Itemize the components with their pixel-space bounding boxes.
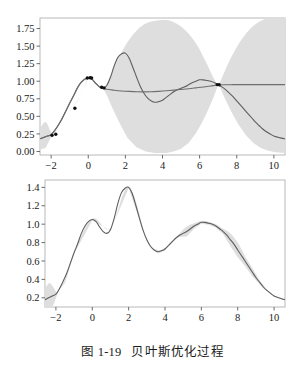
observation-point [90,76,93,79]
observation-point [102,86,105,89]
y-tick-label: 0.75 [16,93,34,104]
y-tick-label: 1.50 [16,41,34,52]
y-tick-label: 0.50 [16,111,34,122]
y-tick-label: 1.2 [26,200,39,211]
x-tick-label: 6 [197,160,202,171]
figure-caption-title: 贝叶斯优化过程 [131,345,223,359]
figure-container: −202468100.000.250.500.751.001.251.501.7… [0,0,305,375]
x-tick-label: 8 [235,312,240,323]
y-tick-label: 0.6 [26,256,39,267]
observation-point [50,134,53,137]
y-tick-label: 0.2 [26,292,39,303]
y-tick-label: 0.8 [26,237,39,248]
x-tick-label: 0 [90,312,95,323]
x-tick-label: 2 [126,312,131,323]
figure-caption-number: 图 1-19 [81,345,121,359]
plot-frame [45,180,285,307]
x-tick-label: −2 [46,160,57,171]
objective-function-chart: −202468100.20.40.60.81.01.21.4 [0,172,305,338]
x-tick-label: 10 [269,160,280,171]
observation-point [217,83,220,86]
figure-caption: 图 1-19贝叶斯优化过程 [0,341,305,360]
y-tick-label: 1.0 [26,219,39,230]
y-tick-label: 1.25 [16,58,34,69]
y-tick-label: 0.4 [26,274,40,285]
chart-panel-top: −202468100.000.250.500.751.001.251.501.7… [0,6,305,174]
y-tick-label: 0.25 [16,129,34,140]
x-tick-label: 4 [162,312,168,323]
x-tick-label: −2 [50,312,61,323]
x-tick-label: 0 [86,160,91,171]
x-tick-label: 4 [160,160,166,171]
x-tick-label: 10 [269,312,280,323]
observation-point [54,133,57,136]
y-tick-label: 1.00 [16,76,34,87]
observation-point [73,107,76,110]
y-tick-label: 0.00 [16,146,34,157]
chart-panel-bottom: −202468100.20.40.60.81.01.21.4 [0,172,305,338]
x-tick-label: 2 [123,160,128,171]
x-tick-label: 8 [234,160,239,171]
y-tick-label: 1.75 [16,23,34,34]
bayesian-surrogate-chart: −202468100.000.250.500.751.001.251.501.7… [0,6,305,174]
y-tick-label: 1.4 [26,182,40,193]
x-tick-label: 6 [199,312,204,323]
